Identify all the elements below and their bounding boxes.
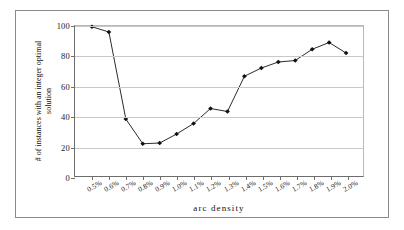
y-axis-title-line-2: solution: [44, 25, 54, 177]
data-point: [157, 141, 162, 146]
y-tick-label: 60: [61, 82, 70, 92]
gridline: [75, 56, 363, 57]
x-axis-title: arc density: [74, 203, 364, 213]
y-tick-label: 80: [61, 51, 70, 61]
x-tick-label: 1.3%: [222, 178, 240, 194]
gridline: [75, 117, 363, 118]
y-tick-mark: [71, 178, 75, 179]
y-tick-label: 100: [57, 21, 70, 31]
x-tick-label: 1.6%: [273, 178, 291, 194]
data-point: [344, 51, 349, 56]
x-tick-label: 1.5%: [256, 178, 274, 194]
x-tick-mark: [211, 176, 212, 180]
x-tick-mark: [177, 176, 178, 180]
x-tick-label: 0.6%: [102, 178, 120, 194]
x-tick-mark: [314, 176, 315, 180]
x-tick-label: 0.9%: [154, 178, 172, 194]
x-tick-mark: [160, 176, 161, 180]
data-point: [276, 60, 281, 65]
x-tick-label: 1.9%: [324, 178, 342, 194]
x-tick-mark: [126, 176, 127, 180]
x-tick-mark: [194, 176, 195, 180]
x-tick-mark: [297, 176, 298, 180]
plot-area: 0204060801000.5%0.6%0.7%0.8%0.9%1.0%1.1%…: [74, 25, 364, 177]
y-axis-title-line-1: # of instances with an integer optimal: [34, 25, 44, 177]
x-tick-label: 1.7%: [290, 178, 308, 194]
data-point: [293, 58, 298, 63]
x-tick-label: 0.8%: [136, 178, 154, 194]
x-tick-mark: [348, 176, 349, 180]
data-point: [225, 109, 230, 114]
series-line: [92, 27, 346, 144]
y-tick-mark: [71, 26, 75, 27]
gridline: [75, 148, 363, 149]
data-point: [242, 74, 247, 79]
x-tick-mark: [109, 176, 110, 180]
x-tick-label: 1.0%: [171, 178, 189, 194]
x-tick-mark: [246, 176, 247, 180]
x-tick-mark: [92, 176, 93, 180]
gridline: [75, 26, 363, 27]
chart-figure: # of instances with an integer optimal s…: [15, 10, 389, 218]
x-tick-mark: [263, 176, 264, 180]
y-tick-mark: [71, 87, 75, 88]
data-point: [259, 66, 264, 71]
x-tick-mark: [229, 176, 230, 180]
x-tick-label: 1.8%: [307, 178, 325, 194]
series-markers: [90, 24, 349, 146]
x-tick-label: 1.4%: [239, 178, 257, 194]
x-tick-label: 0.7%: [119, 178, 137, 194]
y-tick-mark: [71, 117, 75, 118]
x-tick-label: 0.5%: [85, 178, 103, 194]
y-tick-label: 0: [66, 173, 70, 183]
data-point: [310, 47, 315, 52]
y-tick-mark: [71, 148, 75, 149]
data-point: [174, 132, 179, 137]
x-tick-mark: [143, 176, 144, 180]
x-tick-label: 2.0%: [341, 178, 359, 194]
x-tick-label: 1.2%: [205, 178, 223, 194]
x-tick-label: 1.1%: [188, 178, 206, 194]
y-tick-mark: [71, 56, 75, 57]
gridline: [75, 87, 363, 88]
data-series: [75, 26, 363, 176]
y-tick-label: 40: [61, 112, 70, 122]
y-tick-label: 20: [61, 143, 70, 153]
x-tick-mark: [331, 176, 332, 180]
x-tick-mark: [280, 176, 281, 180]
data-point: [106, 30, 111, 35]
y-axis-title: # of instances with an integer optimal s…: [34, 25, 48, 177]
data-point: [327, 40, 332, 45]
